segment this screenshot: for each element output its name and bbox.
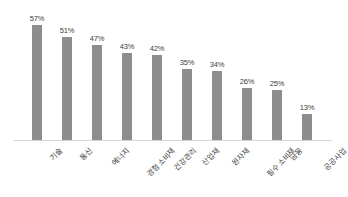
- category-label-anchor: 통신: [73, 0, 74, 1]
- category-label-anchor: 건강관리: [163, 0, 164, 1]
- bar-value-label: 42%: [137, 44, 177, 53]
- bar[interactable]: [122, 53, 132, 140]
- category-label: 공공사업: [321, 145, 348, 172]
- bar-value-label: 34%: [197, 60, 237, 69]
- bar[interactable]: [32, 25, 42, 140]
- bar[interactable]: [302, 114, 312, 140]
- bar[interactable]: [92, 45, 102, 140]
- bar-group[interactable]: 47%: [82, 0, 112, 197]
- category-label-anchor: 공공사업: [313, 0, 314, 1]
- bar[interactable]: [62, 37, 72, 140]
- category-label-anchor: 산업재: [193, 0, 194, 1]
- bar-value-label: 13%: [287, 103, 327, 112]
- category-label-anchor: 기술: [43, 0, 44, 1]
- category-label-anchor: 원자재: [223, 0, 224, 1]
- bar[interactable]: [242, 88, 252, 140]
- category-label-anchor: 경험 소비재: [133, 0, 134, 1]
- bar-value-label: 57%: [17, 14, 57, 23]
- bar-value-label: 25%: [257, 79, 297, 88]
- bar[interactable]: [212, 71, 222, 140]
- bar[interactable]: [182, 69, 192, 140]
- category-label-anchor: 필수 소비재: [253, 0, 254, 1]
- bar-group[interactable]: 51%: [52, 0, 82, 197]
- bar-group[interactable]: 13%: [292, 0, 322, 197]
- category-label-anchor: 에너지: [103, 0, 104, 1]
- bar[interactable]: [272, 90, 282, 140]
- category-label-anchor: 금융: [283, 0, 284, 1]
- bar[interactable]: [152, 55, 162, 140]
